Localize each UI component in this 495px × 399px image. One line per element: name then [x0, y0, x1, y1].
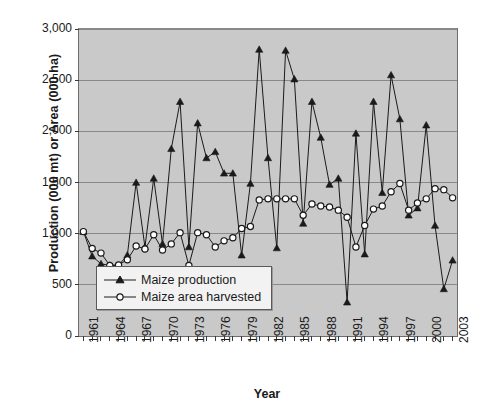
x-axis-title: Year [78, 387, 456, 399]
x-tick-label: 1961 [87, 316, 101, 343]
x-tick-label: 1988 [325, 316, 339, 343]
legend-item-label: Maize area harvested [137, 290, 261, 304]
legend-item-label: Maize production [137, 273, 236, 287]
x-tick-label: 1964 [114, 316, 128, 343]
x-tick-label: 1991 [351, 316, 365, 343]
chart-container: Production (000 mt) or Area (000 ha) 050… [0, 0, 495, 399]
x-tick-label: 1967 [140, 316, 154, 343]
x-tick-label: 1997 [404, 316, 418, 343]
x-tick-label: 1979 [246, 316, 260, 343]
x-tick-label: 1976 [219, 316, 233, 343]
legend-item: Maize production [103, 271, 261, 288]
x-tick-label: 1973 [193, 316, 207, 343]
x-tick-label: 1994 [377, 316, 391, 343]
x-tick-label: 2000 [430, 316, 444, 343]
x-tick-label: 2003 [457, 316, 471, 343]
chart-legend: Maize productionMaize area harvested [96, 266, 272, 310]
legend-item: Maize area harvested [103, 288, 261, 305]
x-tick-label: 1985 [298, 316, 312, 343]
legend-marker-open-circle-icon [103, 290, 137, 304]
legend-marker-filled-triangle-icon [103, 273, 137, 287]
x-tick-label: 1970 [167, 316, 181, 343]
x-tick-label: 1982 [272, 316, 286, 343]
x-axis-tick-labels: 1961196419671970197319761979198219851988… [0, 0, 495, 399]
